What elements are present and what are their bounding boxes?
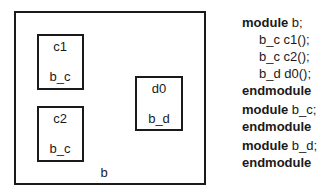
instance-c2-type: b_c — [50, 142, 71, 155]
code-line: b_d d0(); — [242, 65, 317, 82]
instance-c2-name: c2 — [53, 112, 67, 125]
code-line: b_c c1(); — [242, 31, 317, 48]
module-b-label: b — [100, 166, 107, 179]
code-line: endmodule — [242, 154, 317, 171]
verilog-code: module b; b_c c1(); b_c c2(); b_d d0(); … — [242, 14, 317, 171]
code-line: module b_d; — [242, 137, 317, 154]
instance-c1-type: b_c — [50, 70, 71, 83]
code-line: b_c c2(); — [242, 48, 317, 65]
instance-d0-name: d0 — [152, 82, 166, 95]
code-line: endmodule — [242, 118, 317, 135]
code-line: endmodule — [242, 82, 317, 99]
instance-c1-name: c1 — [53, 40, 67, 53]
code-line: module b; — [242, 14, 317, 31]
code-line: module b_c; — [242, 101, 317, 118]
instance-d0-type: b_d — [148, 112, 170, 125]
